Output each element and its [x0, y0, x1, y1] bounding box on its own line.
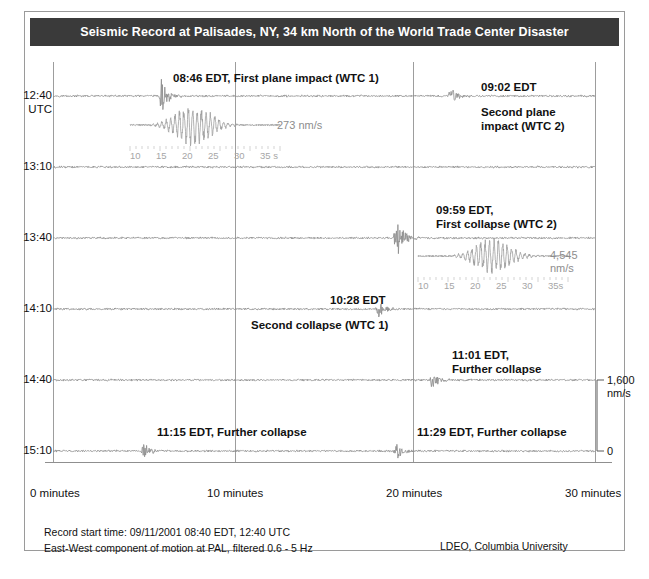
annotation-second-collapse-label: Second collapse (WTC 1) [251, 318, 388, 332]
figure-footnote: Record start time: 09/11/2001 08:40 EDT,… [44, 524, 313, 556]
y-axis-unit-utc: UTC [0, 103, 52, 115]
inset-2-tick-35: 35s [548, 280, 563, 291]
inset-2-tick-30: 30 [522, 280, 533, 291]
scale-bar-top-value: 1,600 [607, 374, 635, 387]
inset-1-tick-10: 10 [130, 150, 141, 161]
annotation-first-plane-impact: 08:46 EDT, First plane impact (WTC 1) [173, 71, 379, 85]
inset-1-tick-20: 20 [182, 150, 193, 161]
x-tick-20-minutes: 20 minutes [386, 487, 442, 499]
inset-2-amplitude-line2: nm/s [550, 262, 574, 275]
credit-line: LDEO, Columbia University [440, 540, 568, 552]
annotation-further-collapse-1101-line2: Further collapse [452, 362, 541, 376]
figure-title-bar: Seismic Record at Palisades, NY, 34 km N… [30, 18, 619, 46]
annotation-second-plane-impact-line1: Second plane [481, 105, 556, 119]
annotation-first-collapse-line1: 09:59 EDT, [436, 203, 494, 217]
component-filter-info: East-West component of motion at PAL, fi… [44, 540, 313, 556]
inset-1-amplitude-label: 273 nm/s [277, 119, 322, 132]
gridline-0-minutes [53, 62, 54, 462]
inset-2-tick-15: 15 [444, 280, 455, 291]
gridline-20-minutes [413, 62, 414, 462]
y-tick-1310: 13:10 [0, 160, 52, 172]
inset-1-tick-35: 35 s [260, 150, 278, 161]
y-tick-1410: 14:10 [0, 302, 52, 314]
x-tick-10-minutes: 10 minutes [207, 487, 263, 499]
inset-1-tick-25: 25 [208, 150, 219, 161]
inset-1-tick-30: 30 [234, 150, 245, 161]
record-start-time: Record start time: 09/11/2001 08:40 EDT,… [44, 524, 313, 540]
scale-bar-bottom-value: 0 [607, 445, 613, 458]
x-tick-30-minutes: 30 minutes [565, 487, 621, 499]
gridline-30-minutes [595, 62, 596, 462]
annotation-further-collapse-1101-line1: 11:01 EDT, [452, 348, 509, 362]
inset-1-tick-15: 15 [156, 150, 167, 161]
inset-2-tick-25: 25 [496, 280, 507, 291]
annotation-second-plane-impact-time: 09:02 EDT [481, 80, 537, 94]
annotation-first-collapse-line2: First collapse (WTC 2) [436, 217, 557, 231]
annotation-further-collapse-1129: 11:29 EDT, Further collapse [417, 425, 567, 439]
gridline-10-minutes [235, 62, 236, 462]
inset-2-tick-20: 20 [470, 280, 481, 291]
annotation-further-collapse-1115: 11:15 EDT, Further collapse [157, 425, 307, 439]
inset-2-tick-10: 10 [418, 280, 429, 291]
x-tick-0-minutes: 0 minutes [30, 487, 80, 499]
scale-bar-top-unit: nm/s [607, 387, 631, 400]
annotation-second-plane-impact-line2: impact (WTC 2) [481, 119, 565, 133]
y-tick-1340: 13:40 [0, 231, 52, 243]
inset-2-amplitude-line1: 4,545 [550, 249, 578, 262]
x-axis-line [45, 462, 612, 463]
page-title: Seismic Record at Palisades, NY, 34 km N… [80, 25, 568, 39]
y-tick-1440: 14:40 [0, 373, 52, 385]
annotation-second-collapse-time: 10:28 EDT [330, 293, 386, 307]
y-tick-1240: 12:40 [0, 89, 52, 101]
seismic-record-figure: Seismic Record at Palisades, NY, 34 km N… [0, 0, 649, 579]
y-tick-1510: 15:10 [0, 444, 52, 456]
